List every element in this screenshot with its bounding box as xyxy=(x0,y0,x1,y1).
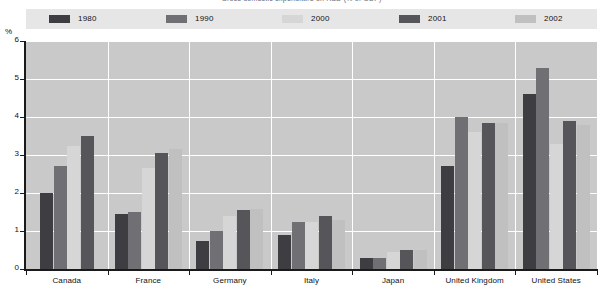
legend-swatch-icon-1990 xyxy=(166,15,187,23)
bar-group-canada xyxy=(40,41,94,269)
bar-canada-2000 xyxy=(67,146,80,270)
bar-france-1980 xyxy=(115,214,128,269)
chart-title: Gross domestic expenditure on R&D (% of … xyxy=(0,0,603,2)
y-axis-line xyxy=(24,41,26,270)
bar-germany-1980 xyxy=(196,241,209,270)
legend-item-2001[interactable]: 2001 xyxy=(399,9,447,29)
bar-japan-1980 xyxy=(360,258,373,269)
gridline-vertical-3 xyxy=(271,41,272,269)
y-tick-mark-4 xyxy=(20,117,24,118)
bar-group-united-states xyxy=(523,41,590,269)
y-tick-label-text-6: 6 xyxy=(3,36,19,44)
y-tick-mark-5 xyxy=(20,79,24,80)
y-tick-mark-2 xyxy=(20,193,24,194)
bar-canada-2001 xyxy=(81,136,94,269)
bar-united-kingdom-1990 xyxy=(455,117,468,269)
y-tick-label-5: 5 xyxy=(0,74,19,84)
bar-united-states-2000 xyxy=(550,144,563,269)
y-tick-mark-0 xyxy=(20,269,24,270)
bar-united-states-2001 xyxy=(563,121,576,269)
x-axis-label-japan: Japan xyxy=(352,277,434,285)
bar-group-germany xyxy=(196,41,263,269)
x-axis-line xyxy=(24,269,598,271)
y-tick-label-0: 0 xyxy=(0,264,19,274)
bar-united-kingdom-1980 xyxy=(441,166,454,269)
legend-label-2001: 2001 xyxy=(428,15,447,23)
bar-canada-1980 xyxy=(40,193,53,269)
x-axis-label-united-kingdom: United Kingdom xyxy=(434,277,516,285)
y-tick-label-text-1: 1 xyxy=(3,226,19,234)
x-tick-mark-5 xyxy=(434,271,435,275)
gridline-vertical-5 xyxy=(434,41,435,269)
bar-germany-2001 xyxy=(237,210,250,269)
bar-germany-1990 xyxy=(210,231,223,269)
bar-italy-1980 xyxy=(278,235,291,269)
y-tick-label-text-2: 2 xyxy=(3,188,19,196)
legend-swatch-icon-2002 xyxy=(515,15,536,23)
y-tick-label-1: 1 xyxy=(0,226,19,236)
y-tick-label-text-5: 5 xyxy=(3,74,19,82)
y-tick-label-2: 2 xyxy=(0,188,19,198)
chart-title-strip: Gross domestic expenditure on R&D (% of … xyxy=(0,0,603,7)
bar-italy-2002 xyxy=(332,220,345,269)
legend-label-1990: 1990 xyxy=(195,15,214,23)
bar-italy-2000 xyxy=(305,222,318,270)
y-tick-label-text-0: 0 xyxy=(3,264,19,272)
x-axis-label-italy: Italy xyxy=(271,277,353,285)
gridline-vertical-6 xyxy=(515,41,516,269)
x-tick-mark-0 xyxy=(26,271,27,275)
bar-japan-2001 xyxy=(400,250,413,269)
x-tick-mark-2 xyxy=(189,271,190,275)
x-tick-mark-3 xyxy=(271,271,272,275)
x-tick-mark-1 xyxy=(108,271,109,275)
legend-label-1980: 1980 xyxy=(78,15,97,23)
x-tick-mark-4 xyxy=(352,271,353,275)
bar-france-1990 xyxy=(128,212,141,269)
x-axis-label-france: France xyxy=(108,277,190,285)
bar-italy-1990 xyxy=(292,222,305,270)
legend-item-2002[interactable]: 2002 xyxy=(515,9,563,29)
bar-united-states-1990 xyxy=(536,68,549,269)
x-axis-label-united-states: United States xyxy=(515,277,597,285)
legend-item-2000[interactable]: 2000 xyxy=(282,9,330,29)
legend-swatch-icon-1980 xyxy=(49,15,70,23)
y-tick-label-4: 4 xyxy=(0,112,19,122)
y-tick-label-text-4: 4 xyxy=(3,112,19,120)
y-tick-label-text-3: 3 xyxy=(3,150,19,158)
bar-group-italy xyxy=(278,41,345,269)
bar-united-states-2002 xyxy=(577,125,590,269)
y-tick-label-6: 6 xyxy=(0,36,19,46)
bar-group-united-kingdom xyxy=(441,41,508,269)
bar-france-2002 xyxy=(169,149,182,269)
bar-france-2000 xyxy=(142,168,155,269)
gridline-vertical-2 xyxy=(189,41,190,269)
bar-group-france xyxy=(115,41,182,269)
bar-germany-2000 xyxy=(223,216,236,269)
bar-japan-2002 xyxy=(414,250,427,269)
rnd-expenditure-bar-chart: Gross domestic expenditure on R&D (% of … xyxy=(0,0,603,291)
plot-area xyxy=(26,41,597,269)
bar-italy-2001 xyxy=(319,216,332,269)
bar-group-japan xyxy=(360,41,427,269)
legend-item-1980[interactable]: 1980 xyxy=(49,9,97,29)
x-axis-label-germany: Germany xyxy=(189,277,271,285)
legend-swatch-icon-2001 xyxy=(399,15,420,23)
legend-item-1990[interactable]: 1990 xyxy=(166,9,214,29)
bar-united-kingdom-2002 xyxy=(495,123,508,269)
bar-france-2001 xyxy=(155,153,168,269)
y-tick-mark-3 xyxy=(20,155,24,156)
x-tick-mark-7 xyxy=(597,271,598,275)
bar-united-kingdom-2001 xyxy=(482,123,495,269)
bar-japan-2000 xyxy=(387,252,400,269)
gridline-vertical-1 xyxy=(108,41,109,269)
y-tick-mark-6 xyxy=(20,41,24,42)
bar-germany-2002 xyxy=(250,209,263,269)
x-axis-label-canada: Canada xyxy=(26,277,108,285)
bar-united-states-1980 xyxy=(523,94,536,269)
x-tick-mark-6 xyxy=(515,271,516,275)
y-axis-unit-label: % xyxy=(5,27,12,36)
legend-swatch-icon-2000 xyxy=(282,15,303,23)
legend-label-2002: 2002 xyxy=(544,15,563,23)
legend-label-2000: 2000 xyxy=(311,15,330,23)
gridline-vertical-4 xyxy=(352,41,353,269)
